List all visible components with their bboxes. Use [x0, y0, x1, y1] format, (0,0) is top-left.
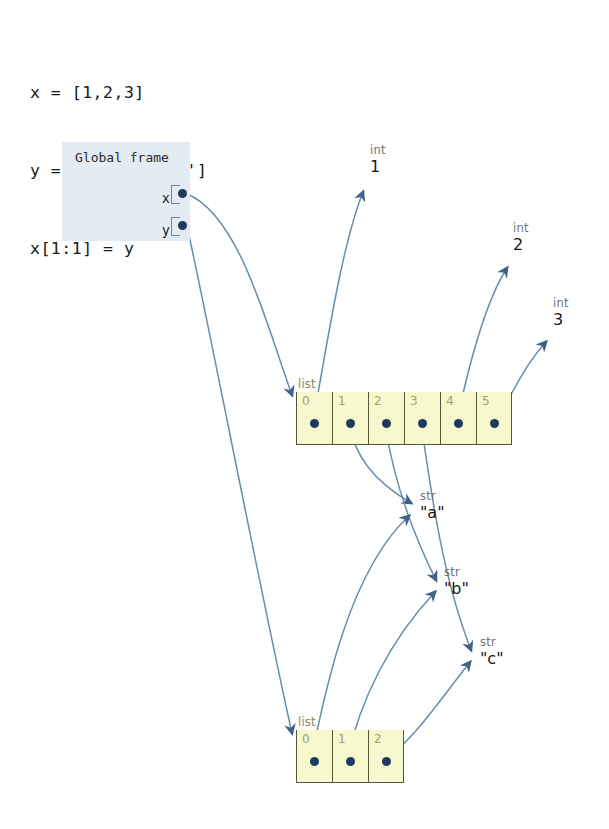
diagram-canvas: x = [1,2,3] y = ['a','b','c'] x[1:1] = y… [0, 0, 609, 829]
frame-variable-x: x [120, 190, 170, 206]
list-bottom-index-2: 2 [374, 732, 382, 746]
list-bottom-dot-2 [382, 757, 391, 766]
list-top-dot-3 [418, 419, 427, 428]
heap-value-int-1: int 1 [370, 144, 386, 176]
list-bottom-index-1: 1 [338, 732, 346, 746]
list-top-cell-4: 4 [440, 392, 476, 445]
heap-value-int-2-value: 2 [513, 235, 529, 254]
arrow-listbottom-0-to-str-a [311, 516, 409, 760]
list-top-cell-5: 5 [476, 392, 512, 445]
list-top-dot-0 [310, 419, 319, 428]
heap-value-int-3: int 3 [553, 297, 569, 329]
list-top-cell-2: 2 [368, 392, 404, 445]
heap-value-str-a: str "a" [420, 490, 445, 522]
arrow-listtop-3-to-str-c [421, 424, 471, 650]
heap-value-int-2-type: int [513, 222, 529, 235]
list-top-index-2: 2 [374, 394, 382, 408]
heap-value-str-a-value: "a" [420, 503, 445, 522]
global-frame-title: Global frame [75, 150, 169, 165]
list-bottom-cell-0: 0 [296, 730, 332, 783]
list-top-dot-4 [454, 419, 463, 428]
heap-value-int-2: int 2 [513, 222, 529, 254]
heap-value-int-1-type: int [370, 144, 386, 157]
heap-value-str-b-type: str [444, 566, 469, 579]
list-top-dot-5 [490, 419, 499, 428]
list-top-dot-1 [346, 419, 355, 428]
pointer-dot-y [178, 221, 187, 230]
list-bottom-dot-0 [310, 757, 319, 766]
list-top-cell-3: 3 [404, 392, 440, 445]
heap-value-int-3-type: int [553, 297, 569, 310]
list-top-cell-0: 0 [296, 392, 332, 445]
list-top-dot-2 [382, 419, 391, 428]
pointer-dot-x [178, 189, 187, 198]
list-top-index-3: 3 [410, 394, 418, 408]
list-top-index-0: 0 [302, 394, 310, 408]
list-top-index-4: 4 [446, 394, 454, 408]
heap-value-int-3-value: 3 [553, 310, 569, 329]
list-bottom-cell-2: 2 [368, 730, 404, 783]
heap-value-str-a-type: str [420, 490, 445, 503]
list-bottom-cell-1: 1 [332, 730, 368, 783]
code-line-1: x = [1,2,3] [30, 80, 207, 106]
heap-value-str-c-type: str [480, 636, 504, 649]
heap-value-int-1-value: 1 [370, 157, 386, 176]
list-top-index-5: 5 [482, 394, 490, 408]
heap-value-str-b-value: "b" [444, 579, 469, 598]
list-top-index-1: 1 [338, 394, 346, 408]
list-bottom-dot-1 [346, 757, 355, 766]
list-object-top: list 0 1 2 3 4 5 [296, 392, 512, 445]
list-bottom-type-label: list [298, 715, 316, 729]
list-top-type-label: list [298, 377, 316, 391]
list-bottom-index-0: 0 [302, 732, 310, 746]
list-top-cell-1: 1 [332, 392, 368, 445]
heap-value-str-c-value: "c" [480, 649, 504, 668]
list-object-bottom: list 0 1 2 [296, 730, 404, 783]
frame-variable-y: y [120, 222, 170, 238]
arrow-listtop-0-to-int-1 [313, 192, 363, 420]
heap-value-str-b: str "b" [444, 566, 469, 598]
heap-value-str-c: str "c" [480, 636, 504, 668]
